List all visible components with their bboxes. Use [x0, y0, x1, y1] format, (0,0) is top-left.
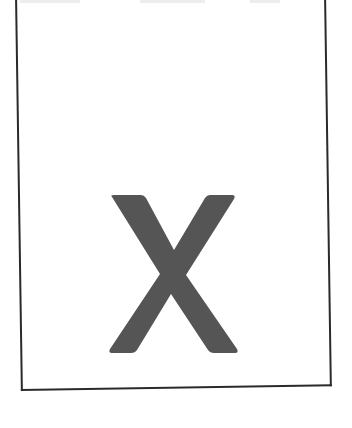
- letter-label: X: [0, 0, 1, 1]
- document-frame: [15, 0, 332, 391]
- scanned-page: X: [0, 0, 352, 428]
